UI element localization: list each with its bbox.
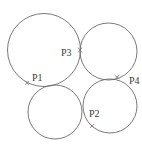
point-p2: P2 <box>89 108 100 128</box>
point-label-p2: P2 <box>89 108 100 119</box>
circle-top-right <box>80 23 137 80</box>
tangent-circles-diagram: P1 P2 P3 P4 <box>0 0 142 150</box>
point-label-p1: P1 <box>32 72 43 83</box>
point-p3: P3 <box>61 47 82 58</box>
circle-bottom-left <box>28 85 82 139</box>
point-label-p4: P4 <box>129 75 140 86</box>
cross-mark-icon <box>90 124 94 128</box>
point-label-p3: P3 <box>61 47 72 58</box>
